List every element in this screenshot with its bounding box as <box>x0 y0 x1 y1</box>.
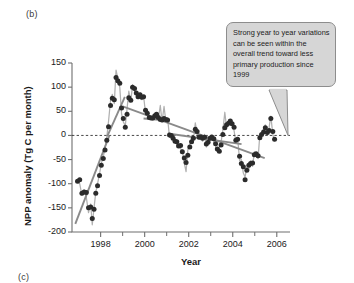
data-point <box>202 135 207 140</box>
data-point <box>184 160 189 165</box>
data-point <box>128 98 133 103</box>
x-axis-ticks <box>101 232 277 237</box>
y-tick-label: -100 <box>34 178 66 188</box>
trend-line-segment <box>123 106 265 158</box>
data-point <box>244 168 249 173</box>
data-point <box>77 177 82 182</box>
data-point <box>99 163 104 168</box>
data-point <box>119 105 124 110</box>
data-point <box>93 191 98 196</box>
data-point <box>213 141 218 146</box>
data-point <box>235 137 240 142</box>
figure-panel-b: (b) Strong year to year variations can b… <box>0 0 354 283</box>
data-point <box>121 116 126 121</box>
data-point <box>211 136 216 141</box>
x-tick-label: 2000 <box>125 239 165 249</box>
y-axis-title: NPP anomaly (Tg C per month) <box>22 86 33 226</box>
x-tick-label: 2006 <box>257 239 297 249</box>
data-point <box>178 143 183 148</box>
data-point <box>106 124 111 129</box>
data-point <box>272 137 277 142</box>
x-tick-label: 2002 <box>169 239 209 249</box>
data-point <box>191 136 196 141</box>
data-point <box>123 125 128 130</box>
data-point <box>187 145 192 150</box>
data-point <box>268 116 273 121</box>
data-point <box>217 149 222 154</box>
y-tick-label: 150 <box>34 57 66 67</box>
data-point <box>232 125 237 130</box>
y-tick-label: -200 <box>34 226 66 236</box>
annotation-callout: Strong year to year variations can be se… <box>226 22 336 87</box>
data-point <box>112 97 117 102</box>
annotation-callout-text: Strong year to year variations can be se… <box>233 28 330 81</box>
data-point <box>220 132 225 137</box>
data-point <box>195 129 200 134</box>
data-point <box>250 160 255 165</box>
data-point <box>141 94 146 99</box>
data-point <box>95 183 100 188</box>
data-point <box>174 139 179 144</box>
x-tick-label: 1998 <box>81 239 121 249</box>
data-point <box>243 177 248 182</box>
data-point <box>185 153 190 158</box>
data-point <box>270 129 275 134</box>
y-tick-label: -150 <box>34 202 66 212</box>
x-tick-label: 2004 <box>213 239 253 249</box>
data-point <box>92 207 97 212</box>
panel-label-c: (c) <box>18 272 29 282</box>
data-point <box>97 173 102 178</box>
data-point-markers <box>75 75 277 221</box>
data-point <box>101 156 106 161</box>
y-tick-label: 100 <box>34 81 66 91</box>
y-tick-label: 50 <box>34 105 66 115</box>
y-axis-ticks <box>68 63 72 232</box>
data-point <box>117 81 122 86</box>
x-axis-title: Year <box>0 256 354 267</box>
data-point <box>104 138 109 143</box>
data-point <box>132 86 137 91</box>
data-point <box>165 117 170 122</box>
data-point <box>219 143 224 148</box>
data-point <box>237 154 242 159</box>
y-tick-label: -50 <box>34 154 66 164</box>
data-point <box>108 103 113 108</box>
y-tick-label: 0 <box>34 129 66 139</box>
raw-data-line <box>78 70 275 225</box>
data-point <box>180 149 185 154</box>
data-point <box>90 216 95 221</box>
data-point <box>84 190 89 195</box>
data-point <box>256 153 261 158</box>
data-point <box>125 112 130 117</box>
x-axis-title-text: Year <box>181 256 201 267</box>
data-point <box>103 147 108 152</box>
data-point <box>145 111 150 116</box>
